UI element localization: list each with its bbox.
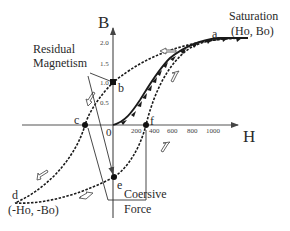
y-tick-2-0: 2.0 xyxy=(100,40,109,47)
y-tick-1-5: 1.5 xyxy=(100,61,109,68)
x-axis-label: H xyxy=(243,128,255,145)
y-tick-0-5: 0.5 xyxy=(100,100,109,107)
saturation-label: Saturation xyxy=(229,10,278,22)
x-tick-200: 200 xyxy=(131,128,142,135)
point-e-label: e xyxy=(117,179,122,191)
point-d-label: d xyxy=(12,189,18,201)
point-a-label: a xyxy=(212,28,217,40)
arrow-down-left-lower xyxy=(37,170,48,180)
y-axis-label: B xyxy=(98,14,109,31)
curve-direction-markers xyxy=(121,38,242,125)
negative-saturation-label: (-Ho, -Bo) xyxy=(8,204,59,216)
coersive-label-1: Coersive xyxy=(124,188,167,200)
y-tick-1-0: 1.0 xyxy=(100,80,109,87)
saturation-coords: (Ho, Bo) xyxy=(231,25,274,37)
direction-arrows xyxy=(37,48,179,199)
point-c-marker xyxy=(82,122,88,128)
arrow-right-bottom xyxy=(79,192,93,199)
residual-label-1: Residual xyxy=(33,43,75,55)
x-tick-400: 400 xyxy=(149,128,160,135)
x-tick-0: 0 xyxy=(106,127,112,138)
point-b-marker xyxy=(110,79,116,85)
arrow-up-right-lower xyxy=(161,142,170,152)
x-tick-1000: 1000 xyxy=(206,128,220,135)
point-b-label: b xyxy=(118,82,124,94)
point-c-label: c xyxy=(74,114,79,126)
x-tick-600: 600 xyxy=(167,128,178,135)
arrow-left-top xyxy=(160,48,176,54)
coersive-leader-c xyxy=(88,128,108,200)
coersive-label-2: Force xyxy=(124,203,151,215)
residual-label-2: Magnetism xyxy=(33,57,87,69)
arrow-up-right-upper xyxy=(171,71,179,82)
point-f-label: f xyxy=(150,115,154,127)
x-tick-800: 800 xyxy=(187,128,198,135)
